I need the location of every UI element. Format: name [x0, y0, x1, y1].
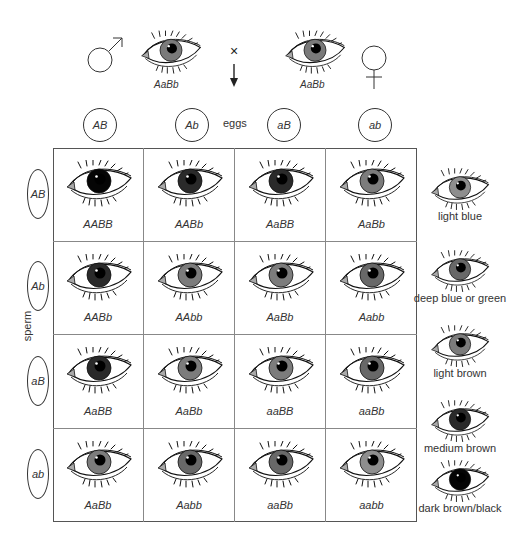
eye-icon — [405, 168, 515, 212]
cell-genotype: AABb — [144, 218, 234, 230]
arrow-down-icon — [229, 64, 239, 92]
cell-genotype: Aabb — [326, 311, 417, 323]
male-genotype: AaBb — [154, 79, 178, 90]
sperm-gamete: ab — [27, 449, 49, 499]
female-genotype: AaBb — [300, 79, 324, 90]
punnett-cell: Aabb — [144, 429, 235, 523]
sperm-gamete: aB — [27, 356, 49, 406]
punnett-cell: AaBb — [144, 335, 235, 429]
punnett-cell: aaBb — [235, 429, 326, 523]
punnett-cell: AABb — [53, 242, 144, 336]
cell-genotype: AaBb — [144, 405, 234, 417]
punnett-cell: AaBb — [235, 242, 326, 336]
punnett-cell: Aabb — [326, 242, 417, 336]
eye-icon — [405, 400, 515, 444]
egg-gamete: Ab — [175, 108, 209, 142]
cell-genotype: AaBB — [53, 405, 143, 417]
legend-label: light brown — [405, 367, 515, 379]
eye-color-legend: light blue deep blue or green light brow… — [405, 160, 516, 530]
punnett-square: AABB AABb AaBB — [53, 148, 417, 522]
punnett-cell: AAbb — [144, 242, 235, 336]
legend-label: light blue — [405, 210, 515, 222]
legend-label: dark brown/black — [405, 502, 515, 514]
cell-genotype: AaBb — [326, 218, 417, 230]
punnett-cell: AABB — [53, 148, 144, 242]
punnett-cell: aaBb — [326, 335, 417, 429]
legend-item: deep blue or green — [405, 250, 515, 304]
cell-genotype: aaBB — [235, 405, 325, 417]
cell-genotype: AABb — [53, 311, 143, 323]
eye-icon — [405, 250, 515, 294]
cell-genotype: AAbb — [144, 311, 234, 323]
egg-gamete: AB — [83, 108, 117, 142]
female-symbol-icon — [358, 45, 392, 95]
sperm-label: sperm — [21, 311, 33, 342]
cell-genotype: aaBb — [235, 499, 325, 511]
legend-item: medium brown — [405, 400, 515, 454]
female-parent-eye — [282, 30, 348, 80]
sperm-gamete: Ab — [27, 261, 49, 311]
legend-item: light blue — [405, 168, 515, 222]
cell-genotype: AaBb — [235, 311, 325, 323]
cell-genotype: aabb — [326, 499, 417, 511]
eggs-label: eggs — [223, 117, 247, 129]
eye-icon — [405, 325, 515, 369]
punnett-cell: AaBb — [53, 429, 144, 523]
cell-genotype: aaBb — [326, 405, 417, 417]
punnett-cell: AaBB — [53, 335, 144, 429]
male-parent-eye — [138, 30, 204, 80]
punnett-cell: AaBb — [326, 148, 417, 242]
male-symbol-icon — [86, 30, 126, 78]
punnett-cell: AABb — [144, 148, 235, 242]
cross-symbol: × — [230, 43, 238, 59]
legend-label: deep blue or green — [405, 292, 515, 304]
cell-genotype: Aabb — [144, 499, 234, 511]
cell-genotype: AABB — [53, 218, 143, 230]
egg-gamete: aB — [267, 108, 301, 142]
legend-item: light brown — [405, 325, 515, 379]
eye-icon — [405, 460, 515, 504]
legend-item: dark brown/black — [405, 460, 515, 514]
punnett-cell: aabb — [326, 429, 417, 523]
sperm-gamete: AB — [27, 169, 49, 219]
cell-genotype: AaBB — [235, 218, 325, 230]
egg-gamete: ab — [358, 108, 392, 142]
punnett-cell: aaBB — [235, 335, 326, 429]
legend-label: medium brown — [405, 442, 515, 454]
cell-genotype: AaBb — [53, 499, 143, 511]
punnett-cell: AaBB — [235, 148, 326, 242]
